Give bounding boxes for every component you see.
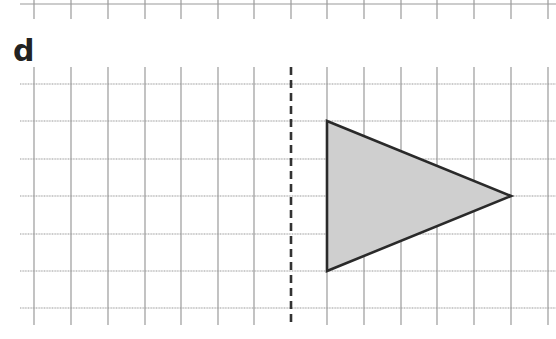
grid-diagram <box>0 0 556 339</box>
top-grid-strip <box>20 0 556 19</box>
triangle-shape <box>327 121 511 271</box>
